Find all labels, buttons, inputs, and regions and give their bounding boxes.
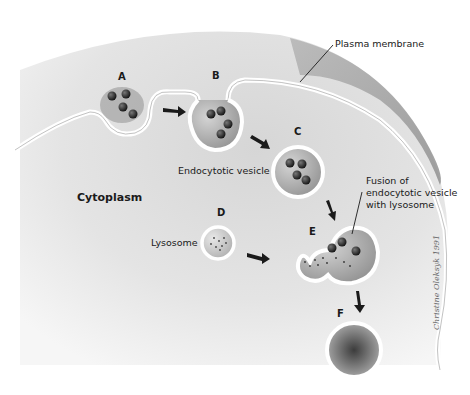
fusion-label-line2: endocytotic vesicle: [366, 187, 457, 199]
stage-c-label: C: [294, 126, 301, 137]
cytoplasm-label: Cytoplasm: [77, 191, 142, 204]
fusion-label-line1: Fusion of: [366, 175, 409, 187]
lysosome-label: Lysosome: [151, 237, 198, 249]
stage-d-lysosome: [202, 227, 234, 259]
stage-a-label: A: [118, 71, 126, 82]
stage-d-label: D: [217, 207, 225, 218]
artist-signature: Christine Oleksyk 1991: [432, 235, 441, 330]
stage-b-vesicle: [190, 100, 242, 150]
fusion-label-line3: with lysosome: [366, 199, 434, 211]
stage-c-vesicle: [273, 147, 323, 197]
stage-f-vesicle: [327, 323, 381, 377]
stage-f-label: F: [337, 308, 344, 319]
stage-e-label: E: [309, 226, 316, 237]
plasma-membrane-label: Plasma membrane: [335, 38, 424, 50]
endocytotic-vesicle-label: Endocytotic vesicle: [178, 165, 270, 177]
stage-b-label: B: [212, 70, 220, 81]
